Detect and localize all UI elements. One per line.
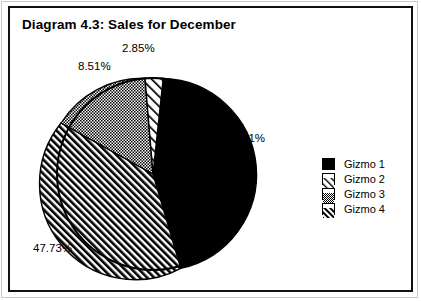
pie-label-gizmo-4: 2.85% bbox=[122, 42, 155, 54]
chart-legend: Gizmo 1 Gizmo 2 Gizmo 3 bbox=[322, 157, 408, 217]
pie-label-gizmo-2: 47.73% bbox=[33, 242, 72, 254]
chart-figure: Diagram 4.3: Sales for December bbox=[0, 0, 421, 301]
legend-label-gizmo-2: Gizmo 2 bbox=[344, 173, 385, 185]
dense-hatch-icon bbox=[323, 208, 334, 218]
legend-label-gizmo-4: Gizmo 4 bbox=[344, 203, 385, 215]
legend-swatch-stipple-icon bbox=[322, 188, 335, 200]
legend-item-gizmo-4: Gizmo 4 bbox=[322, 202, 408, 216]
legend-label-gizmo-3: Gizmo 3 bbox=[344, 188, 385, 200]
legend-swatch-solid-black-icon bbox=[322, 158, 335, 170]
legend-label-gizmo-1: Gizmo 1 bbox=[344, 158, 385, 170]
pie-label-gizmo-3: 8.51% bbox=[78, 60, 111, 72]
stipple-icon bbox=[323, 193, 334, 203]
legend-item-gizmo-2: Gizmo 2 bbox=[322, 172, 408, 186]
legend-swatch-sparse-hatch-icon bbox=[322, 173, 335, 185]
legend-item-gizmo-1: Gizmo 1 bbox=[322, 157, 408, 171]
pie-label-gizmo-1: 40.91% bbox=[226, 132, 265, 144]
legend-swatch-dense-hatch-icon bbox=[322, 203, 335, 215]
legend-item-gizmo-3: Gizmo 3 bbox=[322, 187, 408, 201]
sparse-hatch-icon bbox=[323, 178, 334, 188]
